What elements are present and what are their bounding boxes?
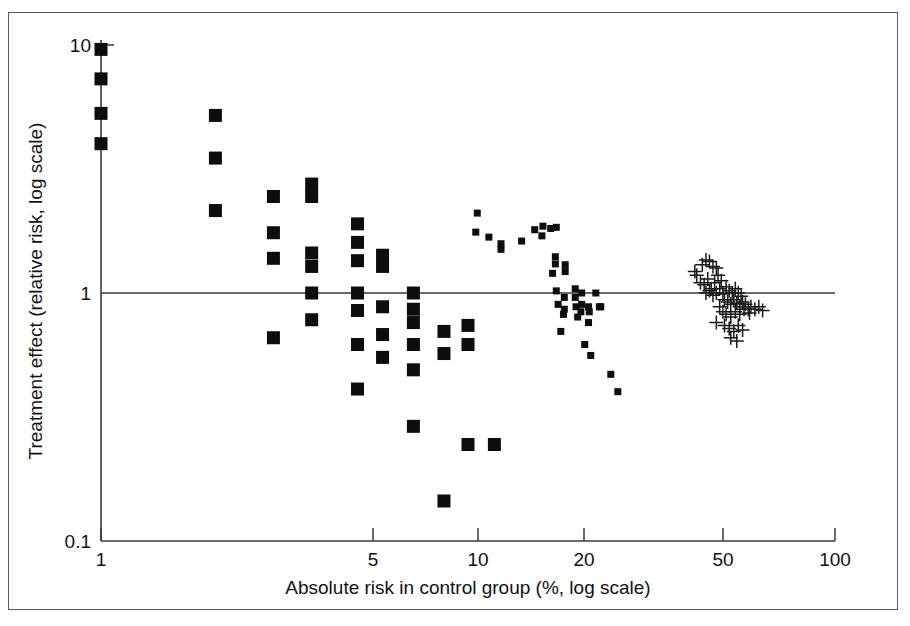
- data-point: [462, 438, 475, 451]
- data-point: [407, 316, 420, 329]
- data-point: [701, 272, 715, 286]
- data-point: [562, 268, 569, 275]
- data-point: [557, 328, 564, 335]
- data-point: [688, 265, 702, 279]
- data-point: [572, 285, 579, 292]
- data-point: [305, 313, 318, 326]
- data-point: [578, 290, 585, 297]
- data-point: [407, 303, 420, 316]
- data-point: [752, 300, 766, 314]
- series-small-squares: [472, 210, 621, 396]
- x-tick-label-5: 5: [368, 549, 379, 570]
- x-axis-title: Absolute risk in control group (%, log s…: [285, 577, 650, 598]
- data-point: [553, 287, 560, 294]
- data-point: [95, 43, 108, 56]
- data-point: [305, 178, 318, 191]
- x-tick-label-1: 1: [96, 549, 107, 570]
- data-point: [730, 334, 744, 348]
- data-point: [351, 383, 364, 396]
- y-tick-label-0.1: 0.1: [65, 531, 91, 552]
- data-point: [549, 270, 556, 277]
- data-point: [305, 287, 318, 300]
- data-point: [756, 304, 770, 318]
- data-point: [351, 287, 364, 300]
- data-point: [209, 204, 222, 217]
- data-point: [585, 319, 592, 326]
- data-point: [531, 226, 538, 233]
- data-point: [376, 351, 389, 364]
- data-point: [209, 152, 222, 165]
- data-point: [305, 190, 318, 203]
- y-tick-label-1: 1: [80, 283, 91, 304]
- data-point: [586, 308, 593, 315]
- data-point: [597, 303, 604, 310]
- data-point: [577, 308, 584, 315]
- data-point: [472, 229, 479, 236]
- data-point: [538, 232, 545, 239]
- data-point: [709, 261, 723, 275]
- data-point: [95, 137, 108, 150]
- data-point: [724, 331, 738, 345]
- data-point: [488, 438, 501, 451]
- x-tick-label-100: 100: [819, 549, 851, 570]
- data-point: [351, 236, 364, 249]
- data-point: [539, 223, 546, 230]
- y-axis-title: Treatment effect (relative risk, log sca…: [25, 123, 46, 460]
- data-point: [552, 253, 559, 260]
- data-point: [587, 352, 594, 359]
- data-point: [209, 109, 222, 122]
- data-point: [351, 304, 364, 317]
- data-point: [555, 301, 562, 308]
- data-point: [462, 319, 475, 332]
- data-point: [518, 238, 525, 245]
- scatter-plot: 10 1 0.1 1 5 10 20 50 100 Absolute risk …: [0, 0, 910, 626]
- data-point: [592, 290, 599, 297]
- data-point: [437, 494, 450, 507]
- data-point: [485, 234, 492, 241]
- data-point: [553, 224, 560, 231]
- data-point: [376, 260, 389, 273]
- data-point: [95, 107, 108, 120]
- data-point: [407, 363, 420, 376]
- series-large-squares: [95, 43, 501, 508]
- data-point: [267, 190, 280, 203]
- data-point: [498, 246, 505, 253]
- data-point: [562, 261, 569, 268]
- data-point: [351, 254, 364, 267]
- data-point: [95, 72, 108, 85]
- data-point: [267, 252, 280, 265]
- data-point: [376, 300, 389, 313]
- data-point: [351, 217, 364, 230]
- series-crosses: [688, 253, 770, 348]
- data-point: [351, 338, 364, 351]
- data-point: [572, 294, 579, 301]
- x-tick-label-20: 20: [573, 549, 594, 570]
- data-point: [305, 246, 318, 259]
- data-point: [560, 311, 567, 318]
- data-point: [552, 260, 559, 267]
- data-point: [407, 338, 420, 351]
- data-point: [437, 325, 450, 338]
- data-point: [407, 420, 420, 433]
- data-point: [305, 260, 318, 273]
- x-tick-label-50: 50: [712, 549, 733, 570]
- data-point: [474, 210, 481, 217]
- data-point: [462, 338, 475, 351]
- data-point: [614, 388, 621, 395]
- data-point: [407, 287, 420, 300]
- data-point: [437, 347, 450, 360]
- data-point: [578, 301, 585, 308]
- data-point: [581, 341, 588, 348]
- y-tick-label-10: 10: [70, 35, 91, 56]
- data-point: [376, 249, 389, 262]
- data-point: [267, 226, 280, 239]
- x-tick-label-10: 10: [467, 549, 488, 570]
- data-point: [561, 294, 568, 301]
- data-point: [709, 316, 723, 330]
- data-point: [607, 371, 614, 378]
- data-point: [376, 328, 389, 341]
- data-point: [267, 331, 280, 344]
